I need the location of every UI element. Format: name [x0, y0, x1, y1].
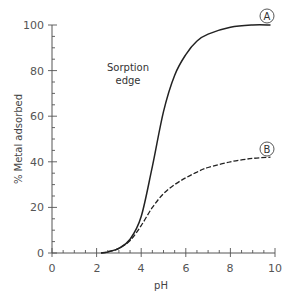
curve-a-label: A	[264, 11, 271, 22]
y-tick-100: 100	[23, 19, 44, 32]
y-axis-title: % Metal adsorbed	[13, 94, 24, 184]
curve-b-line	[101, 157, 270, 253]
curve-a-marker: A	[260, 9, 274, 23]
sorption-edge-label-line1: Sorption	[107, 62, 149, 73]
x-tick-8: 8	[227, 262, 234, 275]
y-axis: 100 80 60 40 20 0 % Metal adsorbed	[13, 19, 57, 260]
y-tick-80: 80	[30, 65, 44, 78]
y-tick-0: 0	[37, 247, 44, 260]
x-tick-4: 4	[138, 262, 145, 275]
y-tick-20: 20	[30, 201, 44, 214]
curve-a-line	[101, 25, 270, 253]
x-axis-title: pH	[154, 280, 168, 291]
sorption-chart: 100 80 60 40 20 0 % Metal adsorbed 0 2 4…	[0, 0, 294, 303]
x-axis: 0 2 4 6 8 10 pH	[49, 248, 283, 291]
x-tick-0: 0	[49, 262, 56, 275]
y-tick-60: 60	[30, 110, 44, 123]
x-tick-10: 10	[268, 262, 282, 275]
sorption-edge-label-line2: edge	[116, 75, 141, 86]
curve-b-marker: B	[260, 142, 274, 156]
curve-b-label: B	[264, 144, 271, 155]
y-tick-40: 40	[30, 156, 44, 169]
x-tick-2: 2	[94, 262, 101, 275]
x-tick-6: 6	[183, 262, 190, 275]
